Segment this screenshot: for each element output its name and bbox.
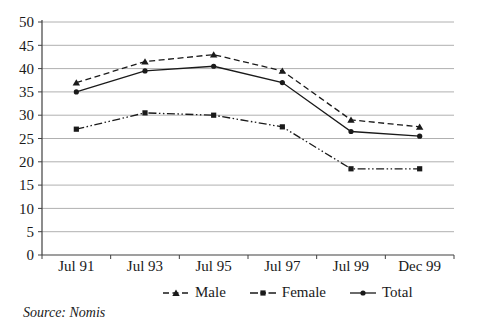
x-tick-label: Jul 99 bbox=[333, 258, 369, 274]
legend-label-male: Male bbox=[195, 285, 226, 300]
chart-legend: Male Female Total bbox=[163, 285, 413, 300]
x-axis-labels: Jul 91Jul 93Jul 95Jul 97Jul 99Dec 99 bbox=[58, 258, 441, 274]
x-tick-label: Jul 93 bbox=[127, 258, 163, 274]
y-tick-label: 50 bbox=[19, 14, 34, 30]
axis-ticks bbox=[38, 22, 454, 259]
legend-item-total: Total bbox=[350, 285, 413, 300]
source-note-text: Source: Nomis bbox=[23, 305, 105, 320]
y-tick-label: 15 bbox=[19, 177, 34, 193]
x-tick-label: Jul 91 bbox=[58, 258, 94, 274]
y-axis-labels: 05101520253035404550 bbox=[19, 14, 34, 263]
y-tick-label: 40 bbox=[19, 61, 34, 77]
series-total bbox=[74, 64, 423, 139]
y-tick-label: 35 bbox=[19, 84, 34, 100]
x-tick-label: Jul 97 bbox=[264, 258, 301, 274]
y-tick-label: 30 bbox=[19, 107, 34, 123]
legend-item-male: Male bbox=[163, 285, 226, 300]
axes bbox=[42, 20, 454, 255]
x-tick-label: Jul 95 bbox=[196, 258, 232, 274]
x-tick-label: Dec 99 bbox=[398, 258, 441, 274]
legend-label-female: Female bbox=[282, 285, 326, 300]
legend-item-female: Female bbox=[250, 285, 326, 300]
female-line-sample-icon bbox=[250, 287, 276, 299]
y-tick-label: 25 bbox=[19, 131, 34, 147]
male-line-sample-icon bbox=[163, 287, 189, 299]
legend-label-total: Total bbox=[382, 285, 413, 300]
line-chart-figure: 05101520253035404550Jul 91Jul 93Jul 95Ju… bbox=[0, 0, 479, 329]
y-tick-label: 0 bbox=[27, 247, 35, 263]
source-note: Source: Nomis bbox=[23, 305, 105, 321]
series-male bbox=[73, 51, 424, 130]
y-tick-label: 45 bbox=[19, 38, 34, 54]
gridlines bbox=[42, 22, 454, 232]
y-tick-label: 10 bbox=[19, 201, 34, 217]
total-line-sample-icon bbox=[350, 287, 376, 299]
y-tick-label: 20 bbox=[19, 154, 34, 170]
y-tick-label: 5 bbox=[27, 224, 35, 240]
chart-canvas: 05101520253035404550Jul 91Jul 93Jul 95Ju… bbox=[0, 0, 479, 329]
